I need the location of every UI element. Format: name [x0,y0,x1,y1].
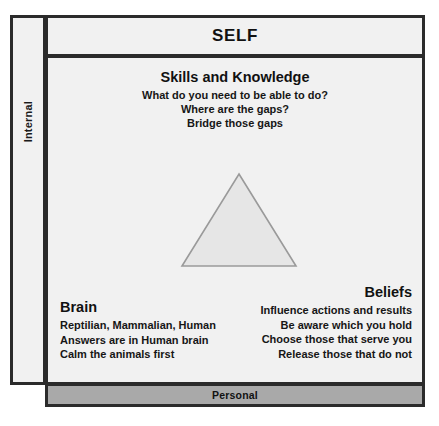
beliefs-title: Beliefs [260,283,412,302]
skills-and-knowledge-block: Skills and Knowledge What do you need to… [48,68,422,130]
internal-axis-column: Internal [10,15,46,385]
brain-line-1: Reptilian, Mammalian, Human [60,318,216,333]
skills-line-2: Where are the gaps? [48,102,422,116]
triangle-shape [182,174,296,266]
skills-line-1: What do you need to be able to do? [48,88,422,102]
brain-line-2: Answers are in Human brain [60,333,216,348]
internal-axis-label: Internal [22,101,34,142]
diagram-canvas: Internal SELF Skills and Knowledge What … [0,0,439,426]
brain-block: Brain Reptilian, Mammalian, Human Answer… [60,298,216,362]
brain-line-3: Calm the animals first [60,347,216,362]
center-triangle [179,170,299,270]
self-header-band: SELF [45,15,425,57]
personal-label: Personal [212,389,258,401]
personal-footer-bar: Personal [45,383,425,407]
skills-line-3: Bridge those gaps [48,116,422,130]
beliefs-line-4: Release those that do not [260,347,412,362]
skills-title: Skills and Knowledge [48,68,422,87]
main-content-box: Skills and Knowledge What do you need to… [45,55,425,385]
beliefs-line-1: Influence actions and results [260,303,412,318]
beliefs-line-2: Be aware which you hold [260,318,412,333]
beliefs-line-3: Choose those that serve you [260,332,412,347]
self-title: SELF [212,26,258,46]
brain-title: Brain [60,298,216,317]
beliefs-block: Beliefs Influence actions and results Be… [260,283,412,361]
